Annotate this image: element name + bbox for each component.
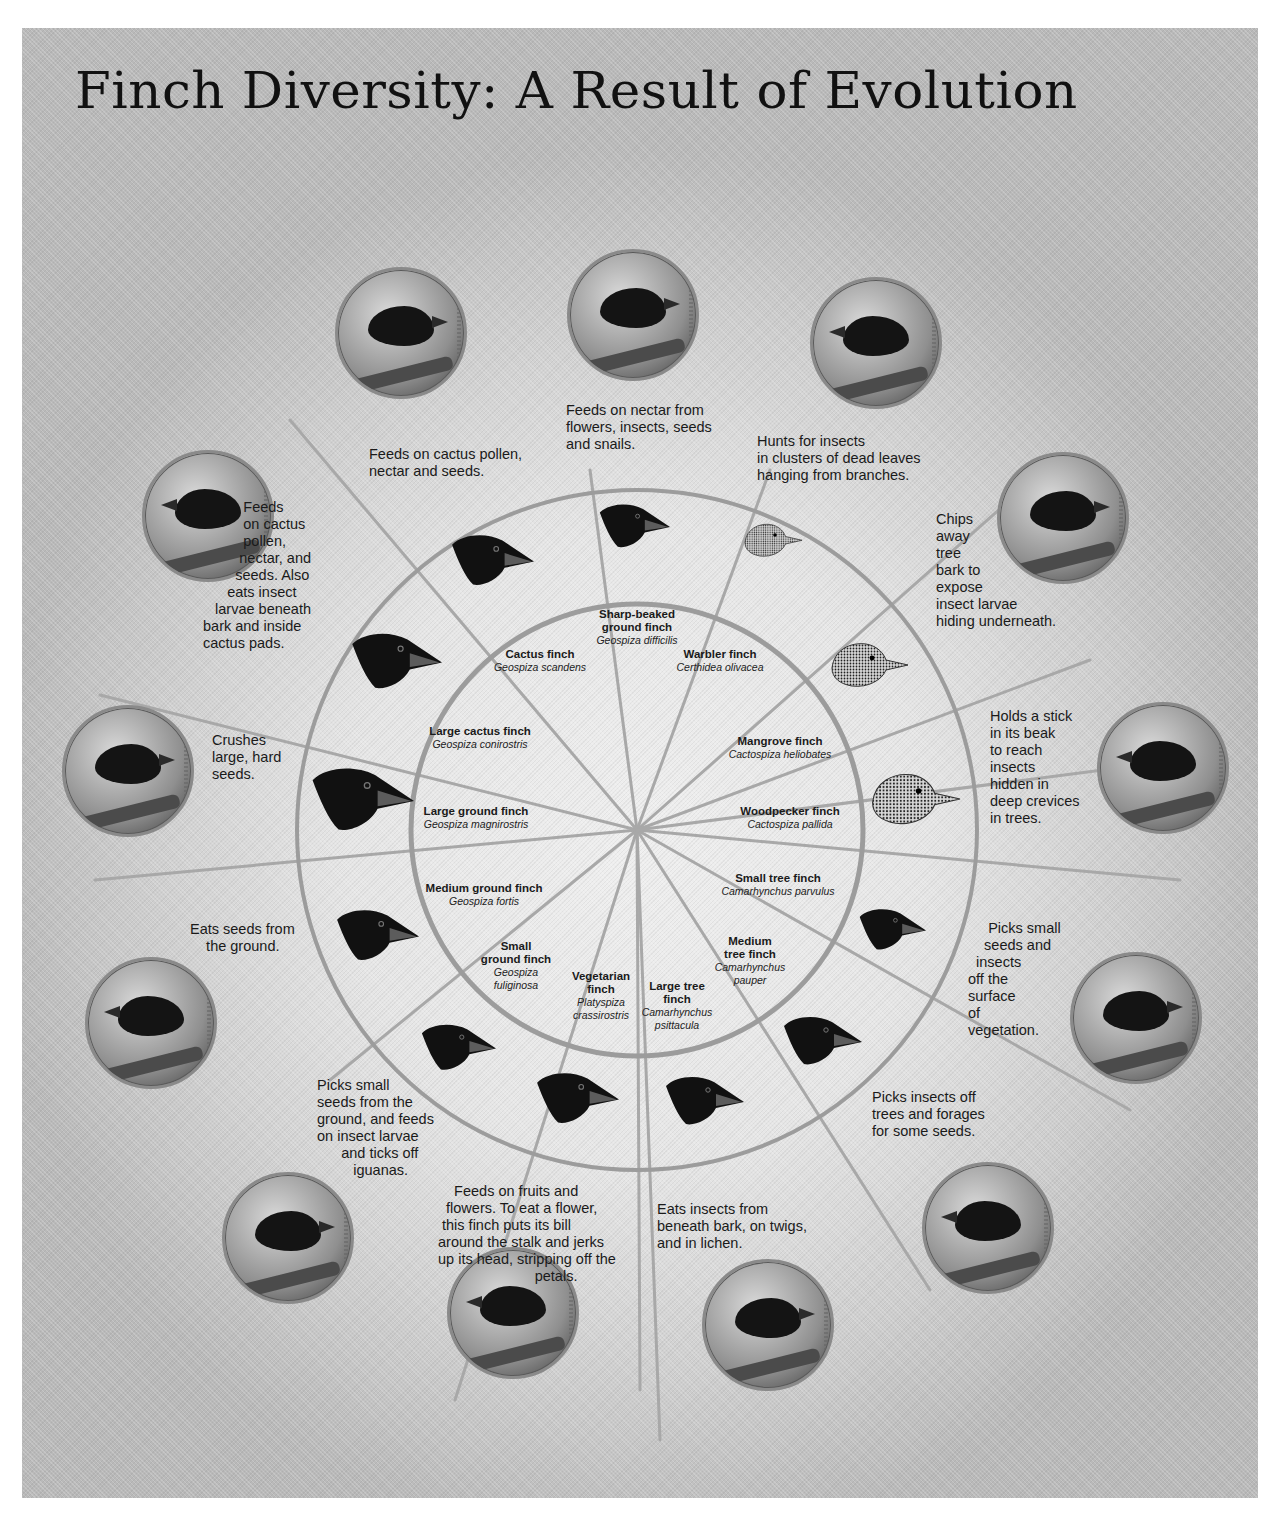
bird-silhouette-icon <box>955 1201 1021 1241</box>
species-label: Woodpecker finchCactospiza pallida <box>715 805 865 831</box>
photo-credit <box>932 310 936 370</box>
finch-photo <box>222 1172 354 1304</box>
common-name: Large cactus finch <box>405 725 555 738</box>
photo-credit <box>457 300 461 360</box>
bird-silhouette-icon <box>843 316 909 356</box>
feeding-description: Chips away tree bark to expose insect la… <box>936 511 1056 630</box>
feeding-description: Eats insects from beneath bark, on twigs… <box>657 1201 807 1252</box>
common-name: Warbler finch <box>645 648 795 661</box>
beak-silhouette-icon <box>782 1012 864 1068</box>
species-label: Warbler finchCerthidea olivacea <box>645 648 795 674</box>
photo-credit <box>569 1280 573 1340</box>
beak-silhouette-icon <box>598 500 672 550</box>
scientific-name: Platyspizacrassirostris <box>526 996 676 1022</box>
bird-silhouette-icon <box>95 744 161 784</box>
photo-credit <box>1044 1195 1048 1255</box>
finch-photo <box>1070 952 1202 1084</box>
feeding-description: Picks small seeds from the ground, and f… <box>317 1077 434 1179</box>
finch-photo <box>702 1259 834 1391</box>
feeding-description: Hunts for insects in clusters of dead le… <box>757 433 921 484</box>
beak-sketch-icon <box>742 520 804 562</box>
species-label: Medium ground finchGeospiza fortis <box>409 882 559 908</box>
beak-silhouette-icon <box>664 1072 746 1128</box>
beak-silhouette-icon <box>335 905 421 964</box>
finch-photo <box>922 1162 1054 1294</box>
finch-photo <box>567 249 699 381</box>
photo-credit <box>1119 485 1123 545</box>
feeding-description: Picks insects off trees and forages for … <box>872 1089 985 1140</box>
spoke-line <box>95 830 637 880</box>
finch-photo <box>1097 702 1229 834</box>
beak-silhouette-icon <box>858 905 928 953</box>
scientific-name: Certhidea olivacea <box>645 661 795 674</box>
species-label: Small tree finchCamarhynchus parvulus <box>703 872 853 898</box>
species-label: Mangrove finchCactospiza heliobates <box>705 735 855 761</box>
beak-silhouette-icon <box>450 530 536 589</box>
finch-photo <box>810 277 942 409</box>
finch-photo <box>62 705 194 837</box>
scientific-name: Geospiza scandens <box>465 661 615 674</box>
species-label: Cactus finchGeospiza scandens <box>465 648 615 674</box>
feeding-description: Feeds on nectar from flowers, insects, s… <box>566 402 712 453</box>
photo-credit <box>1192 985 1196 1045</box>
photo-credit <box>207 990 211 1050</box>
common-name: Cactus finch <box>465 648 615 661</box>
bird-silhouette-icon <box>600 288 666 328</box>
photo-credit <box>824 1292 828 1352</box>
feeding-description: Feeds on cactus pollen, nectar, and seed… <box>203 499 311 652</box>
beak-sketch-icon <box>828 638 910 694</box>
feeding-description: Picks small seeds and insects off the su… <box>968 920 1061 1039</box>
species-label: Sharp-beakedground finchGeospiza diffici… <box>562 608 712 647</box>
species-label: Large cactus finchGeospiza conirostris <box>405 725 555 751</box>
scientific-name: Geospiza conirostris <box>405 738 555 751</box>
species-label: Smallground finchGeospizafuliginosa <box>441 940 591 992</box>
photo-credit <box>1219 735 1223 795</box>
bird-silhouette-icon <box>480 1286 546 1326</box>
common-name: Woodpecker finch <box>715 805 865 818</box>
scientific-name: Cactospiza pallida <box>715 818 865 831</box>
scientific-name: Cactospiza heliobates <box>705 748 855 761</box>
common-name: Large ground finch <box>401 805 551 818</box>
scientific-name: Camarhynchus parvulus <box>703 885 853 898</box>
beak-sketch-icon <box>868 768 962 832</box>
scientific-name: Geospizafuliginosa <box>441 966 591 992</box>
feeding-description: Holds a stick in its beak to reach insec… <box>990 708 1079 827</box>
feeding-description: Eats seeds from the ground. <box>190 921 295 955</box>
feeding-description: Feeds on fruits and flowers. To eat a fl… <box>438 1183 616 1285</box>
photo-credit <box>344 1205 348 1265</box>
scientific-name: Geospiza fortis <box>409 895 559 908</box>
bird-silhouette-icon <box>118 996 184 1036</box>
common-name: Medium ground finch <box>409 882 559 895</box>
bird-silhouette-icon <box>735 1298 801 1338</box>
bird-silhouette-icon <box>1130 741 1196 781</box>
photo-credit <box>689 282 693 342</box>
common-name: Smallground finch <box>441 940 591 966</box>
common-name: Mangrove finch <box>705 735 855 748</box>
finch-photo <box>335 267 467 399</box>
feeding-description: Feeds on cactus pollen, nectar and seeds… <box>369 446 522 480</box>
feeding-description: Crushes large, hard seeds. <box>212 732 281 783</box>
photo-credit <box>184 738 188 798</box>
common-name: Small tree finch <box>703 872 853 885</box>
bird-silhouette-icon <box>1103 991 1169 1031</box>
common-name: Sharp-beakedground finch <box>562 608 712 634</box>
common-name: Mediumtree finch <box>675 935 825 961</box>
species-label: Large ground finchGeospiza magnirostris <box>401 805 551 831</box>
bird-silhouette-icon <box>368 306 434 346</box>
bird-silhouette-icon <box>255 1211 321 1251</box>
finch-photo <box>85 957 217 1089</box>
scientific-name: Geospiza difficilis <box>562 634 712 647</box>
beak-silhouette-icon <box>420 1020 498 1073</box>
scientific-name: Geospiza magnirostris <box>401 818 551 831</box>
beak-silhouette-icon <box>350 628 444 692</box>
beak-silhouette-icon <box>535 1068 621 1127</box>
